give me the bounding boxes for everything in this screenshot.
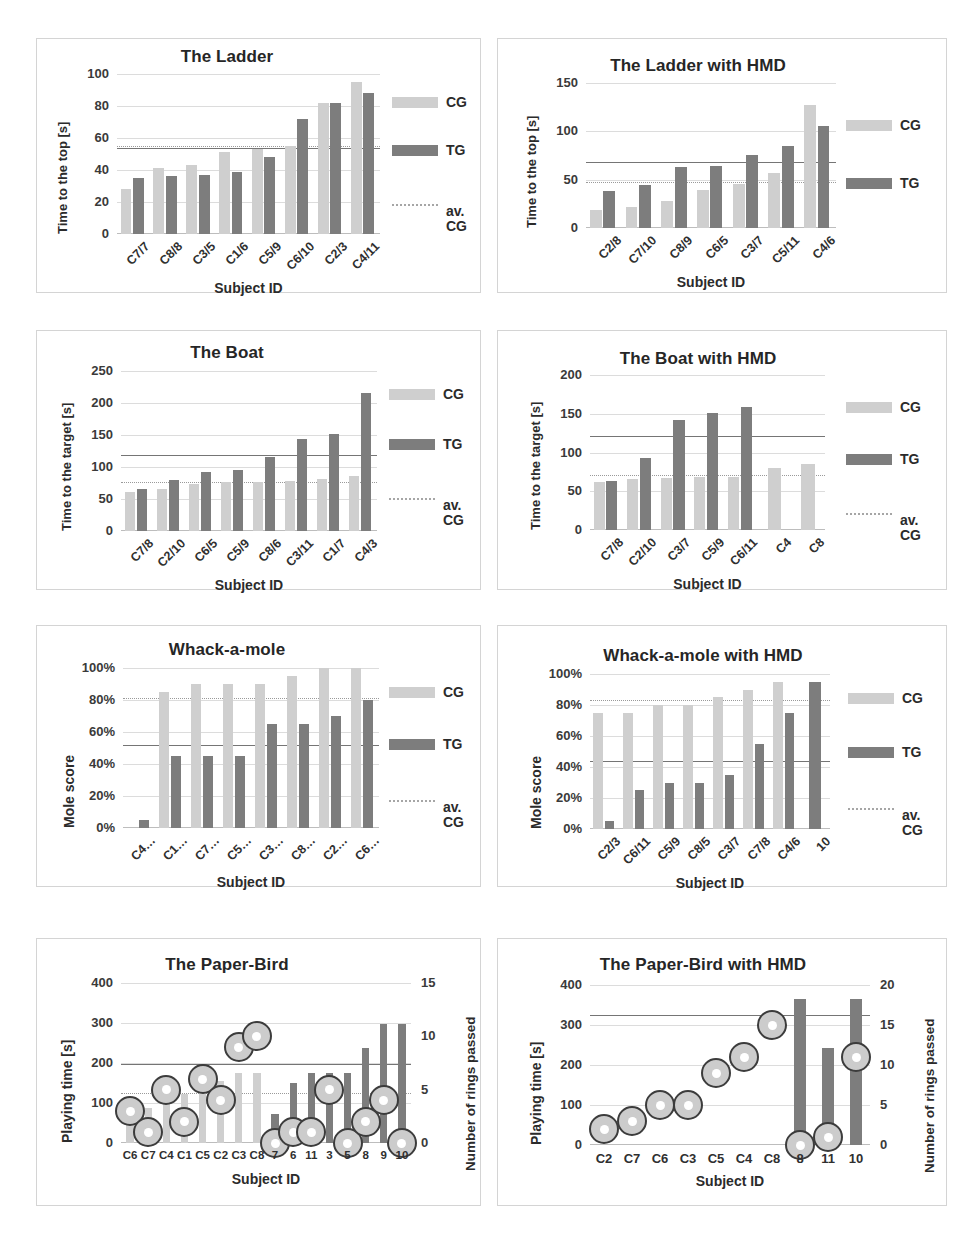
bar-tg: [137, 489, 148, 531]
x-axis-title: Subject ID: [121, 577, 377, 593]
legend-swatch-cg: [389, 687, 435, 698]
bar-cg: [768, 173, 780, 228]
bar-cg: [157, 489, 168, 531]
x-axis-tick-label: 9: [375, 1150, 393, 1162]
y2-axis-title: Number of rings passed: [922, 1018, 937, 1173]
x-axis-tick-label: C8: [248, 1150, 266, 1162]
bar-tg: [725, 775, 735, 829]
y-axis-tick-label: 100: [59, 67, 109, 80]
bar-cg: [694, 477, 705, 530]
bar-tg: [640, 458, 651, 530]
legend-label-tg: TG: [446, 142, 465, 158]
y2-axis-tick-label: 15: [421, 976, 461, 989]
bar-group: [650, 674, 680, 829]
bar-group: [251, 668, 283, 828]
bar-tg: [299, 724, 310, 828]
bar-tg: [232, 172, 243, 234]
bar-cg: [253, 482, 264, 531]
plot-area: 010020030040005101520C2C7C6C3C5C4C881110: [590, 985, 870, 1145]
bar-group: [249, 371, 281, 531]
bar-group: [800, 83, 836, 228]
y2-axis-tick-label: 0: [421, 1136, 461, 1149]
y-axis-tick-label: 400: [63, 976, 113, 989]
plot-area: 0%20%40%60%80%100%C2/3C6/11C5/9C8/5C3/7C…: [590, 674, 830, 829]
bar-group: [283, 668, 315, 828]
bar-cg: [285, 146, 296, 234]
legend-swatch-cg: [846, 120, 892, 131]
bar-group: [123, 668, 155, 828]
x-axis-tick-label: C7: [139, 1150, 157, 1162]
legend-label-avcg: av.CG: [443, 800, 464, 831]
y2-axis-tick-label: 15: [880, 1018, 920, 1031]
legend-label-avcg: av.CG: [900, 513, 921, 544]
legend-swatch-tg: [392, 145, 438, 156]
bar-cg: [159, 692, 170, 828]
chart-panel-paperbird-hmd: The Paper-Bird with HMD01002003004000510…: [497, 938, 947, 1206]
bar-tg: [203, 756, 214, 828]
x-axis-tick-label: 8: [357, 1150, 375, 1162]
bar-cg: [287, 676, 298, 828]
bar-cg: [255, 684, 266, 828]
y-axis-title: Time to the top [s]: [55, 122, 70, 234]
bar-cg: [683, 705, 693, 829]
bar-group: [347, 668, 379, 828]
bar-cg: [697, 190, 709, 228]
bar-group: [724, 375, 758, 530]
bar-cg: [661, 201, 673, 228]
bar-cg: [594, 482, 605, 530]
plot-area: 020406080100C7/7C8/8C3/5C1/6C5/9C6/10C2/…: [117, 74, 380, 234]
y2-axis-tick-label: 5: [880, 1098, 920, 1111]
bar-group: [657, 83, 693, 228]
rings-passed-marker: [151, 1075, 181, 1105]
x-axis-title: Subject ID: [586, 274, 836, 290]
legend-swatch-avcg: [846, 513, 892, 515]
bar-group: [693, 83, 729, 228]
y2-axis-title: Number of rings passed: [463, 1016, 478, 1171]
rings-passed-marker: [729, 1042, 759, 1072]
bar-group: [345, 371, 377, 531]
x-axis-tick-label: C5: [194, 1150, 212, 1162]
bar-cg: [349, 476, 360, 531]
bar-tg: [605, 821, 615, 829]
bar-tg: [265, 457, 276, 531]
y2-axis-tick-label: 0: [880, 1138, 920, 1151]
bar-group: [315, 668, 347, 828]
bar-tg: [639, 185, 651, 229]
bar-cg: [235, 1073, 242, 1143]
bar-group: [150, 74, 183, 234]
bar-group: [121, 371, 153, 531]
bar-cg: [623, 713, 633, 829]
legend-swatch-tg: [846, 454, 892, 465]
bar-group: [758, 375, 792, 530]
chart-panel-boat-hmd: The Boat with HMD050100150200C7/8C2/10C3…: [497, 330, 947, 590]
bar-cg: [804, 105, 816, 228]
chart-panel-ladder: The Ladder020406080100C7/7C8/8C3/5C1/6C5…: [36, 38, 481, 293]
bar-cg: [253, 1073, 260, 1143]
legend-item-cg: CG: [389, 386, 464, 402]
bar-cg: [728, 477, 739, 530]
y2-axis-tick-label: 10: [880, 1058, 920, 1071]
chart-legend: CGTGav.CG: [392, 94, 492, 244]
y-axis-title: Time to the target [s]: [528, 402, 543, 530]
x-axis-tick-label: C5: [702, 1152, 730, 1165]
legend-item-tg: TG: [846, 175, 919, 191]
legend-label-avcg: av.CG: [446, 204, 467, 235]
rings-passed-marker: [841, 1042, 871, 1072]
bar-group: [765, 83, 801, 228]
x-axis-tick-label: 8: [786, 1152, 814, 1165]
y-axis-tick-label: 100%: [532, 667, 582, 680]
bar-cg: [189, 484, 200, 531]
bar-cg: [285, 481, 296, 531]
legend-label-tg: TG: [443, 736, 462, 752]
bar-tg: [794, 999, 805, 1145]
legend-label-tg: TG: [902, 744, 921, 760]
bar-group: [590, 375, 624, 530]
legend-swatch-cg: [389, 389, 435, 400]
chart-panel-boat: The Boat050100150200250C7/8C2/10C6/5C5/9…: [36, 330, 481, 590]
bar-tg: [297, 439, 308, 531]
bar-tg: [264, 157, 275, 234]
bar-tg: [603, 191, 615, 228]
bar-tg: [171, 756, 182, 828]
bar-group: [249, 74, 282, 234]
chart-legend: CGTG: [846, 117, 946, 267]
